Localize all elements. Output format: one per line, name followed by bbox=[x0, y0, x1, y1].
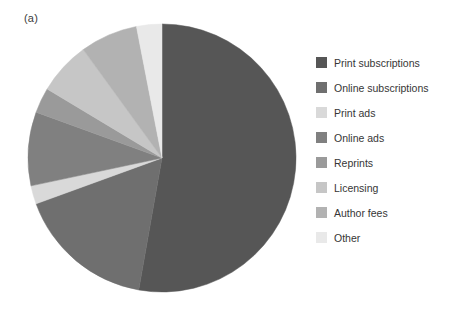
legend-swatch-icon bbox=[316, 132, 327, 143]
legend-swatch-icon bbox=[316, 157, 327, 168]
legend-item[interactable]: Reprints bbox=[316, 150, 456, 175]
legend-swatch-icon bbox=[316, 182, 327, 193]
legend-swatch-icon bbox=[316, 82, 327, 93]
legend-item-label: Licensing bbox=[334, 182, 378, 194]
pie-chart-svg bbox=[26, 22, 298, 294]
legend-item[interactable]: Licensing bbox=[316, 175, 456, 200]
legend-item-label: Online ads bbox=[334, 132, 384, 144]
pie-chart bbox=[26, 22, 298, 294]
legend-item-label: Print subscriptions bbox=[334, 57, 420, 69]
legend-item[interactable]: Author fees bbox=[316, 200, 456, 225]
legend-swatch-icon bbox=[316, 207, 327, 218]
legend-item-label: Author fees bbox=[334, 207, 388, 219]
legend-swatch-icon bbox=[316, 232, 327, 243]
legend-swatch-icon bbox=[316, 107, 327, 118]
pie-slice-group bbox=[28, 24, 296, 292]
legend-item[interactable]: Other bbox=[316, 225, 456, 250]
figure-root: (a) Print subscriptionsOnline subscripti… bbox=[0, 0, 457, 327]
legend-item[interactable]: Print subscriptions bbox=[316, 50, 456, 75]
legend-item-label: Other bbox=[334, 232, 360, 244]
legend-item-label: Online subscriptions bbox=[334, 82, 429, 94]
legend-item-label: Print ads bbox=[334, 107, 375, 119]
legend-item-label: Reprints bbox=[334, 157, 373, 169]
legend-item[interactable]: Print ads bbox=[316, 100, 456, 125]
legend-item[interactable]: Online ads bbox=[316, 125, 456, 150]
legend-item[interactable]: Online subscriptions bbox=[316, 75, 456, 100]
legend: Print subscriptionsOnline subscriptionsP… bbox=[316, 50, 456, 250]
legend-swatch-icon bbox=[316, 57, 327, 68]
